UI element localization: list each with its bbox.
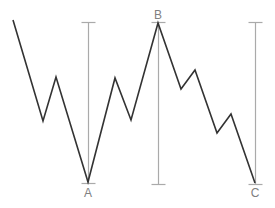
zigzag-polyline: [13, 20, 255, 183]
point-label-c: C: [251, 187, 260, 199]
point-label-a: A: [84, 187, 92, 199]
point-label-b: B: [154, 9, 162, 21]
range-bar-b: [152, 23, 166, 185]
zigzag-diagram: [0, 0, 275, 208]
range-bar-c: [249, 23, 263, 185]
